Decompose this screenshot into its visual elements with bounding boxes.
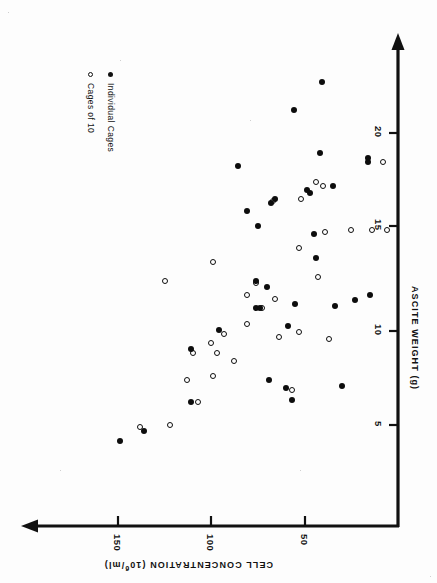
paper-speck	[120, 60, 121, 61]
data-point-cages-of-10	[272, 296, 278, 302]
data-point-cages-of-10	[244, 292, 250, 298]
ytick-label-150: 150	[112, 534, 123, 551]
data-point-cages-of-10	[214, 350, 220, 356]
data-point-individual-cage	[283, 385, 289, 391]
data-point-individual-cage	[117, 438, 123, 444]
data-point-individual-cage	[235, 163, 241, 169]
ascite-weight-axis	[389, 33, 405, 527]
data-point-cages-of-10	[276, 334, 282, 340]
data-point-cages-of-10	[244, 321, 250, 327]
data-point-individual-cage	[330, 183, 336, 189]
data-point-cages-of-10	[289, 387, 295, 393]
cell-concentration-axis	[21, 516, 399, 533]
data-point-individual-cage	[304, 187, 310, 193]
data-point-individual-cage	[244, 208, 250, 214]
data-point-individual-cage	[291, 107, 297, 113]
y-axis-title-post: /ml)	[104, 560, 124, 570]
data-point-cages-of-10	[210, 259, 216, 265]
data-point-individual-cage	[332, 303, 338, 309]
data-point-individual-cage	[289, 397, 295, 403]
legend-label-cages-of-10: Cages of 10	[86, 83, 96, 133]
filled-circle-icon	[108, 72, 113, 77]
legend-label-individual-cages: Individual Cages	[106, 83, 116, 152]
y-axis-title: CELL CONCENTRATION (106/ml)	[104, 560, 273, 572]
ytick-label-50: 50	[299, 534, 310, 546]
data-point-cages-of-10	[313, 179, 319, 185]
data-point-individual-cage	[216, 327, 222, 333]
paper-speck	[250, 120, 251, 121]
data-point-cages-of-10	[221, 331, 227, 337]
data-point-individual-cage	[188, 399, 194, 405]
y-axis-title-exponent: 6	[124, 565, 129, 572]
data-point-individual-cage	[272, 196, 278, 202]
legend-item-individual-cages: Individual Cages	[106, 72, 116, 152]
xtick-label-5: 5	[373, 421, 384, 427]
data-point-cages-of-10	[315, 274, 321, 280]
data-point-individual-cage	[285, 323, 291, 329]
data-point-cages-of-10	[296, 329, 302, 335]
data-point-cages-of-10	[162, 278, 168, 284]
data-point-individual-cage	[141, 428, 147, 434]
figure-canvas: 20 15 10 5 150 100 50 ASCITE WEIGHT (g) …	[0, 0, 437, 583]
paper-speck	[300, 470, 301, 471]
x-axis-title: ASCITE WEIGHT (g)	[410, 286, 420, 390]
data-point-cages-of-10	[296, 245, 302, 251]
data-point-individual-cage	[313, 255, 319, 261]
data-point-cages-of-10	[231, 358, 237, 364]
data-point-cages-of-10	[195, 399, 201, 405]
open-circle-icon	[88, 72, 93, 77]
data-point-cages-of-10	[320, 183, 326, 189]
data-point-individual-cage	[319, 79, 325, 85]
legend-item-cages-of-10: Cages of 10	[86, 72, 96, 133]
paper-speck	[8, 12, 9, 13]
y-axis-title-pre: CELL CONCENTRATION (10	[129, 560, 273, 570]
paper-speck	[60, 470, 61, 471]
data-point-individual-cage	[367, 292, 373, 298]
data-point-individual-cage	[253, 278, 259, 284]
xtick-label-10: 10	[373, 324, 384, 336]
xtick-label-20: 20	[373, 126, 384, 138]
paper-speck	[430, 576, 431, 577]
ytick-label-100: 100	[205, 534, 216, 551]
data-point-individual-cage	[188, 346, 194, 352]
data-point-individual-cage	[317, 150, 323, 156]
